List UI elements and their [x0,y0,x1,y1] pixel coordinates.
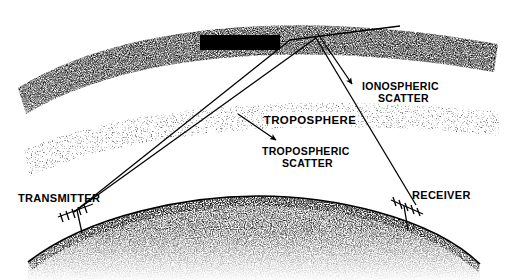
diagram-canvas: IONOSPHERE TROPOSPHERE IONOSPHERIC SCATT… [0,0,506,280]
troposphere-label: TROPOSPHERE [264,112,357,127]
ionospheric-scatter-label-line2: SCATTER [378,92,429,104]
tropospheric-scatter-label-line1: TROPOSPHERIC [262,145,350,157]
ionospheric-scatter-label-line1: IONOSPHERIC [362,80,439,92]
tropospheric-scatter-label-line2: SCATTER [282,157,333,169]
ionosphere-label: IONOSPHERE [200,35,281,50]
scatter-propagation-diagram: IONOSPHERE TROPOSPHERE IONOSPHERIC SCATT… [0,0,506,280]
troposphere-label-text: TROPOSPHERE [264,114,357,126]
transmitter-label: TRANSMITTER [18,192,100,204]
ionosphere-label-text: IONOSPHERE [200,37,281,49]
receiver-label: RECEIVER [412,189,471,201]
